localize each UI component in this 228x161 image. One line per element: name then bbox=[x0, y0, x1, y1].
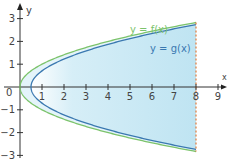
x-tick-label: 9 bbox=[215, 91, 221, 102]
x-tick-label: 2 bbox=[61, 91, 67, 102]
y-axis-arrow-icon bbox=[17, 3, 23, 10]
x-axis-arrow-icon bbox=[221, 85, 227, 90]
x-tick-label: 4 bbox=[105, 91, 111, 102]
x-tick-label: 7 bbox=[171, 91, 177, 102]
label-f: y = f(x) bbox=[130, 24, 168, 35]
y-tick-label: 3 bbox=[9, 13, 15, 24]
y-tick-label: −2 bbox=[0, 127, 15, 138]
x-tick-label: 5 bbox=[127, 91, 133, 102]
y-tick-label: 1 bbox=[9, 59, 15, 70]
origin-label: 0 bbox=[6, 87, 12, 98]
x-tick-label: 1 bbox=[39, 91, 45, 102]
y-tick-label: 2 bbox=[9, 36, 15, 47]
x-tick-label: 8 bbox=[193, 91, 199, 102]
chart-layer: 123456789321−1−2−3 bbox=[0, 3, 227, 161]
plot-area: 123456789321−1−2−3 y = f(x) y = g(x) y x… bbox=[0, 0, 228, 161]
y-axis-label: y bbox=[26, 5, 32, 16]
x-axis-label: x bbox=[222, 73, 227, 82]
x-tick-label: 3 bbox=[83, 91, 89, 102]
y-tick-label: −3 bbox=[0, 150, 15, 161]
label-g: y = g(x) bbox=[150, 43, 191, 54]
x-tick-label: 6 bbox=[149, 91, 155, 102]
y-tick-label: −1 bbox=[0, 104, 15, 115]
